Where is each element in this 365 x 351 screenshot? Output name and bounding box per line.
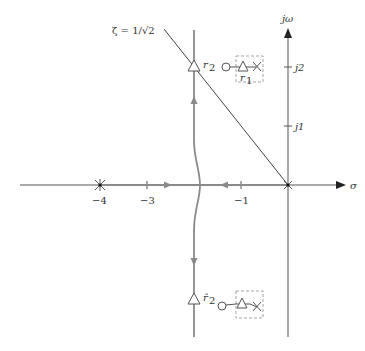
- r2-hat-sub: 2: [209, 295, 215, 306]
- zero-circle-icon: [218, 302, 226, 310]
- locus-arrow-down-icon: [191, 258, 198, 266]
- upper-inset: r 1: [222, 56, 263, 86]
- damping-line-label: ζ = 1/√2: [112, 25, 155, 36]
- triangle-icon: [188, 293, 200, 304]
- imag-ticks: j1 j2: [284, 62, 304, 132]
- tick-label-minus1: −1: [234, 195, 249, 206]
- root-locus-diagram: σ jω −4 −3 −1 j1 j2 ζ = 1/√2: [0, 0, 365, 351]
- triangle-icon: [237, 298, 247, 308]
- r2-sub: 2: [209, 62, 215, 73]
- point-r2-hat: r̂ 2: [188, 292, 215, 306]
- tick-label-j1: j1: [293, 121, 304, 132]
- real-axis-label: σ: [350, 180, 358, 191]
- real-axis-arrow-icon: [336, 181, 346, 189]
- root-locus-real-segments: [100, 182, 288, 189]
- locus-arrow-left-icon: [220, 182, 228, 189]
- imag-axis-arrow-icon: [284, 28, 292, 38]
- tick-label-j2: j2: [293, 62, 304, 73]
- locus-arrow-up-icon: [191, 96, 198, 104]
- lower-inset: [218, 291, 263, 318]
- tick-label-minus4: −4: [92, 195, 107, 206]
- damping-line: ζ = 1/√2: [112, 25, 288, 185]
- zero-circle-icon: [222, 63, 230, 71]
- imag-axis-label: jω: [280, 13, 293, 24]
- root-locus-branch: [191, 30, 201, 337]
- tick-label-minus3: −3: [140, 195, 155, 206]
- point-r2: r 2: [188, 59, 215, 73]
- r1-sub: 1: [246, 75, 252, 86]
- locus-arrow-right-icon: [164, 182, 172, 189]
- triangle-icon: [238, 61, 248, 71]
- imag-axis: jω: [280, 13, 293, 337]
